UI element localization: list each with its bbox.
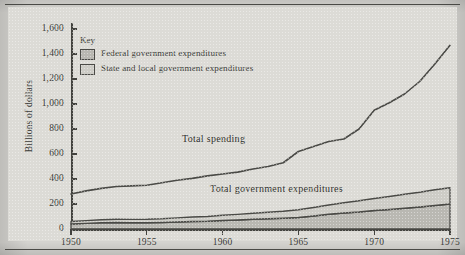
plot-frame: Billions of dollars 02004006008001,0001,… xyxy=(8,7,457,241)
annotation-total-government-expenditures: Total government expenditures xyxy=(210,183,343,194)
annotation-total-spending: Total spending xyxy=(182,133,245,144)
legend-label-federal: Federal government expenditures xyxy=(101,48,226,59)
legend-swatch-federal xyxy=(80,49,95,60)
legend-swatch-state-local xyxy=(80,64,95,75)
legend-item-state-local: State and local government expenditures xyxy=(80,63,260,75)
legend: Key Federal government expenditures Stat… xyxy=(80,35,260,78)
legend-title: Key xyxy=(80,35,260,45)
legend-item-federal: Federal government expenditures xyxy=(80,48,260,60)
figure-container: Billions of dollars 02004006008001,0001,… xyxy=(0,0,465,255)
legend-label-state-local: State and local government expenditures xyxy=(101,63,253,74)
